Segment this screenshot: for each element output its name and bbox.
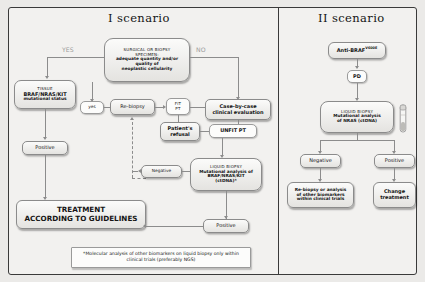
fit-line-2: PT: [175, 107, 180, 111]
edge-no-vertical: [238, 57, 239, 98]
positive-bottom-label: Positive: [216, 223, 235, 229]
arrow-positive-to-treatment: [143, 224, 146, 228]
refusal-line-2: refusal: [170, 132, 190, 138]
node-re-biopsy[interactable]: Re-biopsy: [110, 99, 155, 115]
tissue-line-3: mutational status: [23, 97, 66, 102]
node-unfit-pt[interactable]: UNFIT PT: [209, 124, 257, 138]
arrow-dashed-up-rebiopsy: [130, 117, 134, 120]
arrow-liquid-positive: [224, 216, 228, 219]
edge-pd-to-liquid: [357, 83, 358, 99]
specimen-line-5: neoplastic cellularity: [122, 67, 173, 72]
anti-braf-superscript: V600E: [365, 46, 377, 50]
node-positive-tissue[interactable]: Positive: [22, 141, 68, 155]
node-anti-braf[interactable]: Anti-BRAFV600E: [328, 42, 386, 59]
treatment-line-2: ACCORDING TO GUIDELINES: [25, 215, 138, 223]
diagram-canvas: I scenario II scenario SURGICAL OR BIOPS…: [0, 0, 425, 282]
edge-unfit-to-liquid: [222, 138, 223, 156]
negative-2-label: Negative: [309, 158, 331, 164]
edge-lb2-split-vertical: [357, 133, 358, 140]
edge-liquid-to-positive: [226, 191, 227, 219]
edge-tissue-to-positive: [45, 109, 46, 138]
node-patients-refusal[interactable]: Patient's refusal: [160, 122, 200, 141]
edge-fit-to-refusal: [178, 115, 179, 122]
edge-dashed-negative-horizontal: [132, 178, 146, 179]
edge-label-yes: YES: [62, 46, 74, 53]
edge-specimen-to-no-horizontal: [190, 57, 238, 58]
positive-2-label: Positive: [385, 158, 404, 164]
edge-yes-vertical: [47, 57, 48, 77]
edge-specimen-to-yes-horizontal: [47, 57, 104, 58]
edge-positive-to-treatment: [45, 155, 46, 198]
negative-1-label: Negative: [152, 169, 171, 174]
edge-label-no: NO: [196, 46, 206, 53]
footnote-box: *Molecular analysis of other biomarkers …: [71, 247, 251, 268]
edge-yes-to-rebiopsy: [104, 107, 110, 108]
edge-negative-1-left: [132, 171, 138, 172]
case-line-2: clinical evaluation: [212, 110, 263, 116]
edge-positive-to-treatment-horizontal: [146, 226, 203, 227]
node-positive-scenario-2[interactable]: Positive: [374, 154, 415, 168]
node-surgical-or-biopsy-specimen[interactable]: SURGICAL OR BIOPSY SPECIMEN: adequate qu…: [104, 38, 190, 82]
edge-liquid-to-negative: [182, 171, 190, 172]
edge-lb2-split-horizontal: [320, 140, 394, 141]
change-line-2: treatment: [380, 195, 409, 201]
node-negative-scenario-2[interactable]: Negative: [300, 154, 341, 168]
positive-left-label: Positive: [35, 145, 54, 151]
scenario-2-title: II scenario: [318, 11, 385, 25]
arrow-to-negative-1: [138, 169, 141, 173]
node-change-treatment[interactable]: Change treatment: [373, 182, 416, 208]
test-tube-icon: [398, 104, 408, 134]
node-yes-small[interactable]: yes: [80, 101, 104, 114]
node-pd[interactable]: PD: [347, 70, 367, 83]
node-liquid-biopsy-scenario-2[interactable]: LIQUID BIOPSY Mutational analysis of NRA…: [320, 101, 394, 133]
node-case-by-case-clinical-evaluation[interactable]: Case-by-case clinical evaluation: [205, 99, 271, 120]
scenario-1-title: I scenario: [108, 11, 170, 25]
rebiopsy-label: Re-biopsy: [120, 104, 145, 110]
lb1-line-4: (ctDNA)*: [215, 179, 236, 184]
edge-dashed-negative-to-rebiopsy: [132, 122, 133, 178]
yes-small-label: yes: [88, 105, 95, 110]
unfit-label: UNFIT PT: [220, 128, 246, 134]
node-tissue-mutational-status[interactable]: TISSUE BRAF/NRAS/KIT mutational status: [14, 80, 76, 109]
scenario-divider: [278, 8, 279, 274]
edge-fit-to-case: [190, 107, 205, 108]
node-positive-scenario-1[interactable]: Positive: [203, 219, 249, 233]
node-negative-scenario-1[interactable]: Negative: [141, 165, 182, 178]
pd-label: PD: [353, 74, 361, 80]
arrow-tissue-positive: [43, 137, 47, 140]
arrow-antibraf-pd: [355, 66, 359, 69]
node-re-biopsy-or-other-biomarkers[interactable]: Re-biopsy or analysis of other biomarker…: [287, 182, 354, 208]
node-liquid-biopsy-scenario-1[interactable]: LIQUID BIOPSY Mutational analysis of BRA…: [190, 158, 262, 191]
lb2-line-3: of NRAS (ctDNA): [337, 119, 377, 124]
node-treatment-according-to-guidelines[interactable]: TREATMENT ACCORDING TO GUIDELINES: [16, 200, 146, 229]
arrow-to-tissue: [45, 76, 49, 79]
arrow-yes-small: [90, 99, 94, 102]
edge-refusal-to-unfit: [200, 131, 209, 132]
edge-case-to-unfit: [238, 120, 239, 124]
node-fit-pt[interactable]: FIT PT: [166, 98, 190, 115]
rebio2-line-3: within clinical trials: [297, 197, 345, 202]
anti-braf-label: Anti-BRAFV600E: [337, 47, 378, 53]
